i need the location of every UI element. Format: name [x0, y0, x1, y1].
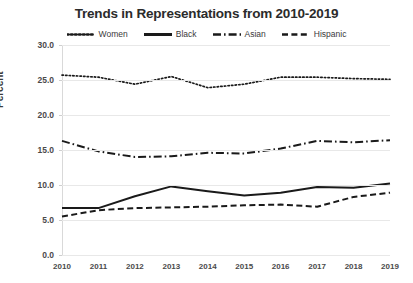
x-tick-label: 2011: [90, 262, 107, 271]
gridline: [62, 255, 390, 256]
y-tick-mark: [59, 150, 62, 151]
legend-item-asian[interactable]: Asian: [213, 29, 266, 39]
y-tick-mark: [59, 255, 62, 256]
y-axis-title: Percent: [0, 71, 5, 108]
x-tick-label: 2014: [199, 262, 217, 271]
y-tick-mark: [59, 115, 62, 116]
y-tick-label: 5.0: [14, 215, 54, 225]
series-line-black: [62, 184, 390, 209]
x-tick-label: 2015: [235, 262, 253, 271]
plot-area: [62, 45, 390, 255]
x-tick-label: 2013: [162, 262, 180, 271]
gridline: [62, 80, 390, 81]
series-line-asian: [62, 140, 390, 157]
gridline: [62, 220, 390, 221]
legend-item-black[interactable]: Black: [144, 29, 197, 39]
y-tick-mark: [59, 45, 62, 46]
gridline: [62, 150, 390, 151]
chart-title: Trends in Representations from 2010-2019: [0, 6, 413, 21]
y-tick-mark: [59, 80, 62, 81]
chart-container: Trends in Representations from 2010-2019…: [0, 0, 413, 283]
y-tick-label: 25.0: [14, 75, 54, 85]
legend-item-hispanic[interactable]: Hispanic: [282, 29, 347, 39]
y-tick-label: 0.0: [14, 250, 54, 260]
legend-swatch-dashed-icon: [282, 30, 310, 39]
x-tick-label: 2018: [345, 262, 363, 271]
x-tick-label: 2019: [381, 262, 399, 271]
legend-label: Women: [99, 29, 128, 39]
legend-label: Hispanic: [314, 29, 347, 39]
x-tick-label: 2017: [308, 262, 326, 271]
y-tick-mark: [59, 220, 62, 221]
legend-label: Black: [176, 29, 197, 39]
legend-item-women[interactable]: Women: [67, 29, 128, 39]
gridline: [62, 115, 390, 116]
y-tick-label: 20.0: [14, 110, 54, 120]
gridline: [62, 45, 390, 46]
y-tick-mark: [59, 185, 62, 186]
y-tick-label: 15.0: [14, 145, 54, 155]
y-tick-label: 10.0: [14, 180, 54, 190]
x-tick-label: 2010: [53, 262, 71, 271]
x-tick-label: 2012: [126, 262, 144, 271]
series-line-women: [62, 75, 390, 88]
y-tick-label: 30.0: [14, 40, 54, 50]
legend-swatch-dashdot-icon: [213, 30, 241, 39]
x-tick-label: 2016: [272, 262, 290, 271]
chart-legend: WomenBlackAsianHispanic: [0, 29, 413, 39]
legend-swatch-dotted-icon: [67, 30, 95, 39]
legend-swatch-solid-icon: [144, 30, 172, 39]
legend-label: Asian: [245, 29, 266, 39]
gridline: [62, 185, 390, 186]
